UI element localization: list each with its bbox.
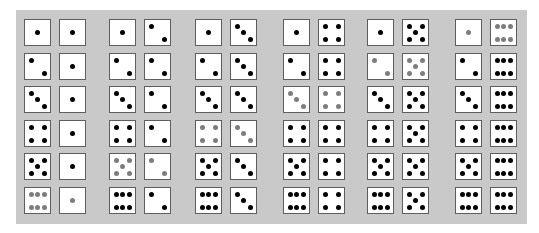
pip-dot-icon (35, 30, 40, 35)
pip-dot-icon (407, 192, 412, 197)
pip-dot-icon (323, 171, 328, 176)
pip-dot-icon (70, 97, 75, 102)
pip-dot-icon (213, 138, 218, 143)
pip-dot-icon (385, 125, 390, 130)
pip-dot-icon (162, 104, 167, 109)
pip-dot-icon (114, 158, 119, 163)
pip-dot-icon (466, 164, 471, 169)
die-second (490, 53, 517, 80)
pip-dot-icon (120, 30, 125, 35)
pip-dot-icon (378, 97, 383, 102)
pip-dot-icon (301, 205, 306, 210)
die-first (195, 53, 222, 80)
pip-dot-icon (372, 205, 377, 210)
pip-dot-icon (385, 138, 390, 143)
pip-dot-icon (29, 171, 34, 176)
die-first (455, 153, 482, 180)
pip-dot-icon (70, 30, 75, 35)
pip-dot-icon (460, 91, 465, 96)
pip-dot-icon (420, 37, 425, 42)
die-second (59, 19, 86, 46)
pip-dot-icon (460, 158, 465, 163)
pip-dot-icon (70, 198, 75, 203)
pip-dot-icon (420, 138, 425, 143)
pip-dot-icon (473, 171, 478, 176)
pip-dot-icon (120, 205, 125, 210)
pip-dot-icon (288, 125, 293, 130)
die-second (144, 53, 171, 80)
die-second (402, 19, 429, 46)
pip-dot-icon (288, 138, 293, 143)
pip-dot-icon (495, 205, 500, 210)
die-first (195, 120, 222, 147)
pip-dot-icon (420, 91, 425, 96)
pip-dot-icon (378, 205, 383, 210)
pip-dot-icon (301, 104, 306, 109)
pip-dot-icon (70, 131, 75, 136)
pip-dot-icon (385, 104, 390, 109)
die-first (455, 120, 482, 147)
pip-dot-icon (466, 192, 471, 197)
pip-dot-icon (501, 158, 506, 163)
pip-dot-icon (235, 158, 240, 163)
pip-dot-icon (288, 205, 293, 210)
pip-dot-icon (336, 91, 341, 96)
pip-dot-icon (473, 158, 478, 163)
pip-dot-icon (29, 158, 34, 163)
die-first (455, 86, 482, 113)
pip-dot-icon (235, 125, 240, 130)
pip-dot-icon (149, 158, 154, 163)
pip-dot-icon (413, 198, 418, 203)
pip-dot-icon (460, 205, 465, 210)
die-first (283, 153, 310, 180)
pip-dot-icon (241, 30, 246, 35)
pip-dot-icon (495, 171, 500, 176)
pip-dot-icon (413, 30, 418, 35)
pip-dot-icon (336, 138, 341, 143)
pip-dot-icon (29, 125, 34, 130)
pip-dot-icon (42, 192, 47, 197)
die-first (367, 187, 394, 214)
pip-dot-icon (413, 64, 418, 69)
pip-dot-icon (114, 138, 119, 143)
pip-dot-icon (162, 138, 167, 143)
pip-dot-icon (407, 205, 412, 210)
pip-dot-icon (127, 71, 132, 76)
pip-dot-icon (127, 104, 132, 109)
pip-dot-icon (466, 30, 471, 35)
pip-dot-icon (248, 71, 253, 76)
pip-dot-icon (501, 37, 506, 42)
pip-dot-icon (127, 171, 132, 176)
pip-dot-icon (407, 37, 412, 42)
die-second (230, 53, 257, 80)
pip-dot-icon (162, 171, 167, 176)
pip-dot-icon (200, 125, 205, 130)
pip-dot-icon (336, 37, 341, 42)
die-first (455, 53, 482, 80)
pip-dot-icon (420, 125, 425, 130)
pip-dot-icon (495, 104, 500, 109)
pip-dot-icon (323, 91, 328, 96)
pip-dot-icon (301, 158, 306, 163)
pip-dot-icon (200, 91, 205, 96)
pip-dot-icon (420, 171, 425, 176)
pip-dot-icon (200, 158, 205, 163)
pip-dot-icon (206, 164, 211, 169)
pip-dot-icon (407, 58, 412, 63)
die-first (109, 19, 136, 46)
pip-dot-icon (120, 97, 125, 102)
pip-dot-icon (127, 192, 132, 197)
pip-dot-icon (323, 58, 328, 63)
pip-dot-icon (495, 37, 500, 42)
pip-dot-icon (501, 192, 506, 197)
pip-dot-icon (336, 171, 341, 176)
pip-dot-icon (70, 64, 75, 69)
pip-dot-icon (407, 125, 412, 130)
pip-dot-icon (508, 125, 513, 130)
pip-dot-icon (213, 192, 218, 197)
pip-dot-icon (114, 205, 119, 210)
pip-dot-icon (288, 171, 293, 176)
pip-dot-icon (206, 30, 211, 35)
pip-dot-icon (466, 205, 471, 210)
pip-dot-icon (508, 205, 513, 210)
